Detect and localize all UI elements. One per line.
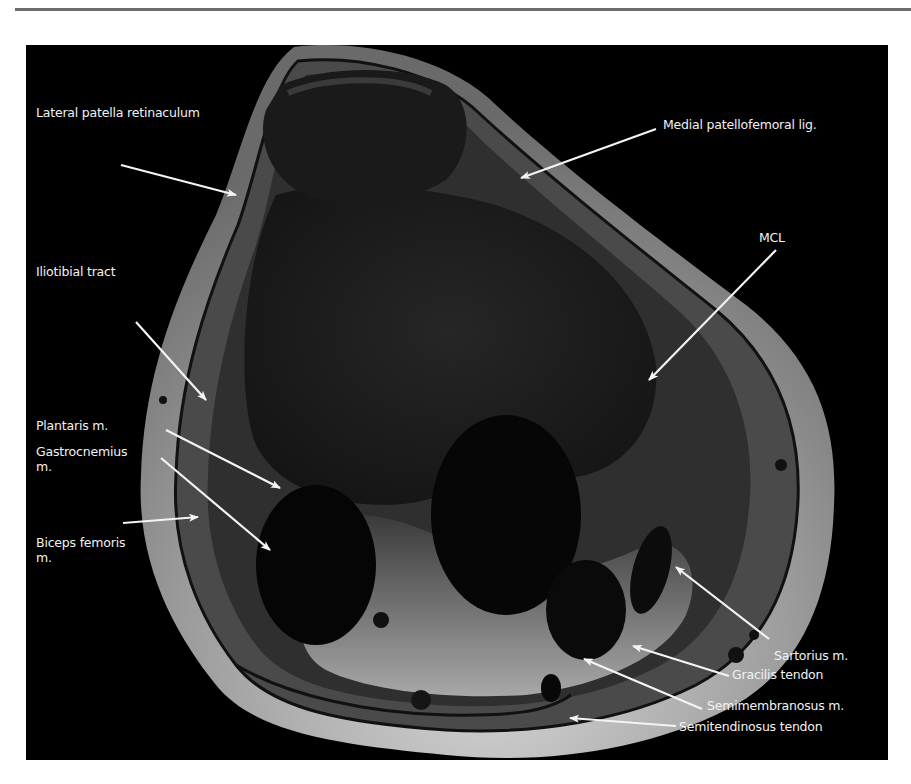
label-medial-patellofemoral-lig: Medial patellofemoral lig.: [663, 117, 817, 132]
label-sartorius-m: Sartorius m.: [774, 648, 848, 663]
label-mcl: MCL: [759, 230, 785, 245]
label-lateral-patella-retinaculum: Lateral patella retinaculum: [36, 105, 200, 120]
label-semitendinosus-tendon: Semitendinosus tendon: [679, 719, 823, 734]
knee-mri-image: [26, 45, 888, 760]
label-iliotibial-tract: Iliotibial tract: [36, 264, 115, 279]
label-gracilis-tendon: Gracilis tendon: [732, 667, 823, 682]
mri-figure: Lateral patella retinaculum Medial patel…: [26, 45, 888, 760]
label-gastrocnemius-m: Gastrocnemius m.: [36, 444, 127, 474]
header-rule: [15, 8, 911, 11]
arrow-lateral-patella-retinaculum: [121, 165, 236, 195]
label-plantaris-m: Plantaris m.: [36, 418, 108, 433]
label-semimembranosus-m: Semimembranosus m.: [707, 698, 844, 713]
label-biceps-femoris-m: Biceps femoris m.: [36, 535, 125, 565]
